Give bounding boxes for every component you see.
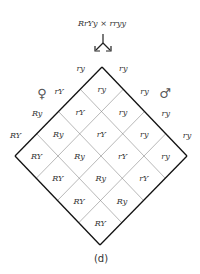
male-gamete-label: ry [183,131,192,140]
male-gamete-label: ry [119,64,128,73]
female-gamete-label: ry [77,64,86,73]
cell-genotype: ry [140,130,149,139]
cell-genotype: ry [119,108,128,117]
border-line [100,156,187,245]
cell-genotype: RY [72,197,85,206]
cell-genotype: RY [94,219,107,228]
female-gamete-label: RY [9,131,22,140]
cell-genotype: Ry [73,152,85,161]
border-line [15,67,102,156]
split-arrow-icon [95,34,111,51]
cross-label: RrYy × rryy [77,19,127,28]
female-gamete-label: rY [54,87,64,96]
cell-genotype: RY [30,152,43,161]
grid-line [79,134,166,223]
male-gamete-label: ry [140,87,149,96]
cell-genotype: rY [75,108,85,117]
border-line [102,67,187,156]
male-symbol: ♂ [159,86,171,101]
border-line [15,156,100,245]
grid-line [58,112,145,201]
female-gamete-label: Ry [31,109,43,118]
cell-genotype: rY [97,130,107,139]
cell-genotype: Ry [52,130,64,139]
cell-genotype: RY [51,174,64,183]
cell-genotype: ry [98,85,107,94]
male-gamete-label: ry [162,109,171,118]
cell-genotype: Ry [116,197,128,206]
cell-genotype: Ry [95,174,107,183]
female-symbol: ♀ [37,86,47,101]
cell-genotype: rY [139,174,149,183]
cell-genotype: rY [118,152,128,161]
punnett-square-diagram: RrYy × rryy ♀ ♂ ryryryryrYrYrYrYRyRyRyRy… [0,0,200,274]
caption: (d) [94,253,108,264]
cell-genotype: ry [161,152,170,161]
grid-line [37,134,122,223]
